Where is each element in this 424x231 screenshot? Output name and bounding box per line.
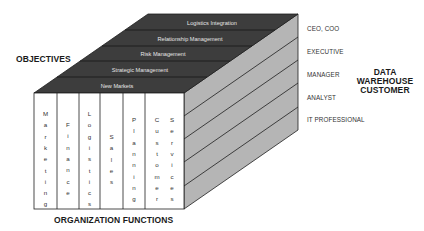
data-warehouse-customer-axis-label: DATA WAREHOUSE CUSTOMER [350, 68, 420, 95]
side-label-line: CUSTOMER [350, 86, 420, 95]
objective-label: Risk Management [140, 51, 186, 57]
customer-level-it-professional: IT PROFESSIONAL [307, 116, 365, 123]
objective-label: Logistics Integration [187, 20, 237, 26]
customer-level-manager: MANAGER [307, 71, 340, 78]
objectives-axis-label: OBJECTIVES [16, 54, 71, 64]
customer-level-analyst: ANALYST [307, 94, 336, 101]
customer-level-executive: EXECUTIVE [307, 48, 344, 55]
objective-label: Relationship Management [158, 36, 223, 42]
objective-label: New Markets [101, 83, 134, 89]
customer-level-ceo: CEO, COO [307, 25, 339, 32]
objective-label: Strategic Management [112, 67, 169, 73]
organization-functions-axis-label: ORGANIZATION FUNCTIONS [54, 215, 173, 225]
